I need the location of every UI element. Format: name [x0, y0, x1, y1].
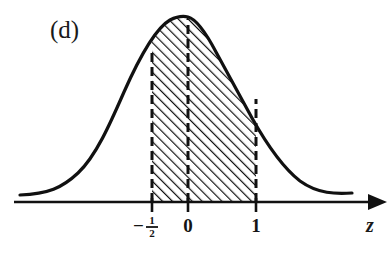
figure-canvas: (d) − 1 2 0 1 z — [0, 0, 390, 262]
shaded-region — [20, 16, 352, 202]
minus-sign: − — [133, 215, 144, 236]
normal-curve-figure: (d) − 1 2 0 1 z — [0, 0, 390, 262]
tick-label-one: 1 — [251, 215, 261, 236]
fraction-numerator: 1 — [149, 214, 155, 226]
tick-label-zero: 0 — [183, 215, 193, 236]
tick-label-negative-half: − 1 2 — [133, 214, 158, 239]
right-arrow-icon — [368, 194, 387, 210]
z-axis-label: z — [365, 214, 374, 236]
shaded-region-fill — [20, 16, 352, 202]
fraction-denominator: 2 — [149, 227, 155, 239]
panel-label: (d) — [50, 16, 79, 44]
